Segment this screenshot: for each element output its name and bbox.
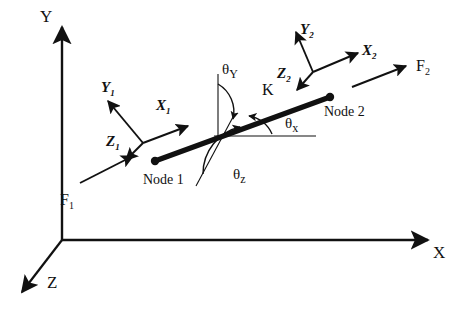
local-z1-subscript: 1 xyxy=(115,142,120,152)
local-z2-arrow xyxy=(297,72,313,90)
node2-label: Node 2 xyxy=(324,105,365,119)
angle-arc-theta-y xyxy=(218,84,234,119)
force-f1-label: F1 xyxy=(60,192,74,211)
local-x2-label: X2 xyxy=(362,43,377,61)
force-f2-letter: F xyxy=(416,57,425,74)
local-z1-label: Z1 xyxy=(106,134,120,152)
diagram-canvas xyxy=(0,0,464,310)
local-y2-subscript: 2 xyxy=(309,30,314,40)
force-f2-arrow xyxy=(352,66,406,87)
theta-x-subscript: x xyxy=(292,121,298,135)
node1-label: Node 1 xyxy=(143,173,184,187)
force-f2-label: F2 xyxy=(416,58,430,77)
force-f1-letter: F xyxy=(60,191,69,208)
local-x1-label: X1 xyxy=(156,98,171,116)
local-y1-label: Y1 xyxy=(101,80,115,98)
local-x2-arrow xyxy=(313,53,358,72)
angle-theta-x-label: θx xyxy=(285,116,298,134)
stiffness-label: K xyxy=(262,82,274,98)
local-y1-subscript: 1 xyxy=(110,88,115,98)
node2-marker xyxy=(326,93,334,101)
theta-z-subscript: z xyxy=(240,172,245,186)
global-y-axis-label: Y xyxy=(40,8,52,25)
force-f1-subscript: 1 xyxy=(69,200,74,211)
local-x1-subscript: 1 xyxy=(166,106,171,116)
angle-theta-z-label: θz xyxy=(233,167,246,185)
local-triad-node2 xyxy=(296,32,358,90)
local-y1-letter: Y xyxy=(101,79,110,95)
local-y2-letter: Y xyxy=(300,21,309,37)
theta-y-subscript: Y xyxy=(229,67,238,81)
local-y2-label: Y2 xyxy=(300,22,314,40)
local-z2-letter: Z xyxy=(277,65,286,81)
local-x2-letter: X xyxy=(362,42,372,58)
local-x1-arrow xyxy=(143,126,188,143)
local-z2-subscript: 2 xyxy=(286,74,291,84)
force-f2-subscript: 2 xyxy=(425,66,430,77)
local-z1-letter: Z xyxy=(106,133,115,149)
local-x1-letter: X xyxy=(156,97,166,113)
beam-element-diagram: Y X Z Y1 X1 Z1 Y2 X2 Z2 F1 F2 K Node 1 N… xyxy=(0,0,464,310)
angle-theta-y-label: θY xyxy=(222,62,238,80)
local-z2-label: Z2 xyxy=(277,66,291,84)
local-x2-subscript: 2 xyxy=(372,51,377,61)
global-x-axis-label: X xyxy=(433,244,445,261)
reference-line-theta-z xyxy=(196,117,233,186)
global-z-axis-label: Z xyxy=(47,274,57,291)
force-f1-arrow xyxy=(80,156,133,183)
node1-marker xyxy=(151,157,159,165)
